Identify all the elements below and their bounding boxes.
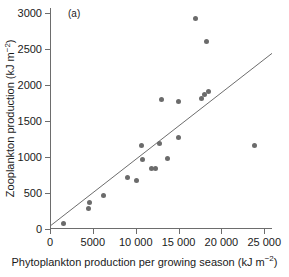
x-tick-20000 bbox=[221, 229, 222, 234]
data-point bbox=[252, 143, 257, 148]
y-axis-title: Zooplankton production (kJ m−2) bbox=[1, 12, 18, 224]
y-axis-title-text: Zooplankton production (kJ m bbox=[4, 52, 16, 197]
data-point bbox=[140, 157, 145, 162]
data-point bbox=[125, 175, 130, 180]
data-point bbox=[206, 89, 211, 94]
data-point bbox=[159, 97, 164, 102]
data-point bbox=[204, 39, 209, 44]
x-tick-label-15000: 15 000 bbox=[162, 237, 196, 248]
y-axis-title-close: ) bbox=[4, 39, 16, 43]
x-tick-25000 bbox=[264, 229, 265, 234]
x-tick-0 bbox=[50, 229, 51, 234]
data-point bbox=[193, 16, 198, 21]
data-point bbox=[157, 141, 162, 146]
data-point bbox=[101, 193, 106, 198]
x-axis-title: Phytoplankton production per growing sea… bbox=[0, 252, 289, 269]
data-point bbox=[86, 206, 91, 211]
x-axis-title-close: ) bbox=[274, 256, 278, 268]
x-tick-label-25000: 25 000 bbox=[247, 237, 281, 248]
data-point bbox=[199, 96, 204, 101]
scatter-plot-figure: (a) 050010001500200025003000 0500010 000… bbox=[0, 0, 289, 277]
plot-area: 050010001500200025003000 0500010 00015 0… bbox=[50, 8, 272, 229]
data-point bbox=[61, 221, 66, 226]
y-axis-title-exponent: −2 bbox=[3, 43, 12, 52]
data-point bbox=[87, 200, 92, 205]
x-tick-5000 bbox=[93, 229, 94, 234]
data-point bbox=[153, 166, 158, 171]
x-axis-title-exponent: −2 bbox=[265, 254, 274, 263]
x-tick-15000 bbox=[179, 229, 180, 234]
x-axis-title-text: Phytoplankton production per growing sea… bbox=[12, 256, 265, 268]
x-tick-label-10000: 10 000 bbox=[119, 237, 153, 248]
data-point bbox=[139, 143, 144, 148]
data-points-layer bbox=[50, 8, 272, 229]
x-tick-label-20000: 20 000 bbox=[205, 237, 239, 248]
data-point bbox=[176, 99, 181, 104]
y-tick-label-0: 0 bbox=[2, 224, 42, 235]
data-point bbox=[134, 178, 139, 183]
x-tick-label-0: 0 bbox=[47, 237, 53, 248]
data-point bbox=[165, 156, 170, 161]
x-tick-10000 bbox=[136, 229, 137, 234]
data-point bbox=[176, 135, 181, 140]
x-tick-label-5000: 5000 bbox=[81, 237, 105, 248]
